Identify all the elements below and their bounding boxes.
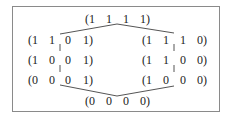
vector-token: 0 (65, 53, 71, 67)
vector-token: 0 (49, 53, 55, 67)
vector-token: 0 (180, 53, 186, 67)
vector-token: (1 (142, 33, 152, 47)
vector-token: 1) (83, 73, 93, 87)
vector-token: 1 (123, 12, 129, 26)
vector-token: 1 (106, 12, 112, 26)
vector-token: 0) (197, 33, 207, 47)
vector-token: 0 (65, 33, 71, 47)
vector-token: (1 (142, 53, 152, 67)
vector-token: 0) (197, 73, 207, 87)
vector-token: (1 (28, 33, 38, 47)
vector-token: (1 (85, 12, 95, 26)
vector-token: 1) (83, 33, 93, 47)
vector-token: 1) (140, 12, 150, 26)
vector-token: 1) (83, 53, 93, 67)
vector-token: 1 (163, 33, 169, 47)
vector-token: 0) (140, 94, 150, 108)
vector-token: (0 (85, 94, 95, 108)
vector-token: 0) (197, 53, 207, 67)
vector-token: (1 (28, 53, 38, 67)
vector-token: (1 (142, 73, 152, 87)
vector-token: 0 (49, 73, 55, 87)
vector-token: 0 (163, 73, 169, 87)
vector-token: 0 (106, 94, 112, 108)
vector-token: 1 (180, 33, 186, 47)
vector-token: 1 (49, 33, 55, 47)
vector-token: 0 (65, 73, 71, 87)
vector-token: (0 (28, 73, 38, 87)
vector-token: 1 (163, 53, 169, 67)
vector-token: 0 (123, 94, 129, 108)
vector-token: 0 (180, 73, 186, 87)
